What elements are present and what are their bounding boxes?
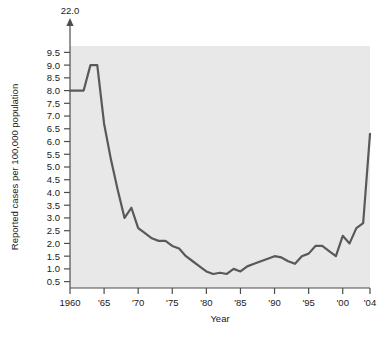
y-tick-label: 9.5 <box>47 47 60 58</box>
y-tick-label: 5.5 <box>47 149 60 160</box>
x-tick-label: '80 <box>200 297 212 308</box>
x-axis-title: Year <box>210 313 229 324</box>
y-tick-label: 1.5 <box>47 251 60 262</box>
y-tick-label: 0.5 <box>47 276 60 287</box>
y-tick-label: 4.0 <box>47 187 60 198</box>
y-tick-label: 6.5 <box>47 123 60 134</box>
x-tick-label: '75 <box>166 297 178 308</box>
y-tick-label: 7.5 <box>47 98 60 109</box>
x-tick-label: 1960 <box>59 297 80 308</box>
y-tick-label: 3.0 <box>47 212 60 223</box>
y-tick-label: 6.0 <box>47 136 60 147</box>
y-tick-label: 2.5 <box>47 225 60 236</box>
y-tick-label: 3.5 <box>47 200 60 211</box>
x-tick-label: '04 <box>364 297 376 308</box>
pertussis-incidence-chart: 9.59.08.58.07.57.06.56.05.55.04.54.03.53… <box>0 0 382 342</box>
y-tick-label: 4.5 <box>47 174 60 185</box>
plot-area-background <box>70 46 370 288</box>
y-tick-label: 2.0 <box>47 238 60 249</box>
y-tick-label: 1.0 <box>47 263 60 274</box>
chart-canvas: 9.59.08.58.07.57.06.56.05.55.04.54.03.53… <box>0 0 382 342</box>
x-tick-label: '00 <box>337 297 349 308</box>
x-tick-label: '70 <box>132 297 144 308</box>
x-tick-label: '85 <box>234 297 246 308</box>
axis-break-label: 22.0 <box>61 5 80 16</box>
y-tick-label: 8.5 <box>47 72 60 83</box>
y-tick-label: 8.0 <box>47 85 60 96</box>
y-axis-tick-labels: 9.59.08.58.07.57.06.56.05.55.04.54.03.53… <box>47 47 60 287</box>
x-tick-label: '95 <box>302 297 314 308</box>
y-axis-title: Reported cases per 100,000 population <box>9 84 20 250</box>
x-tick-label: '90 <box>268 297 280 308</box>
y-tick-label: 5.0 <box>47 161 60 172</box>
x-tick-label: '65 <box>98 297 110 308</box>
y-tick-label: 7.0 <box>47 110 60 121</box>
y-tick-label: 9.0 <box>47 60 60 71</box>
